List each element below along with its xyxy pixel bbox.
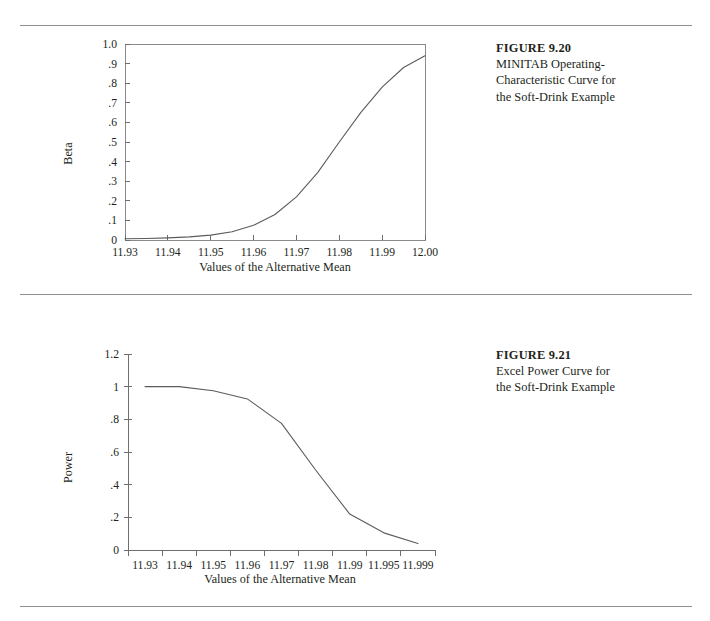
y-tick-label: .4 (108, 156, 117, 169)
power-curve-svg: 1.21.8.6.4.2011.9311.9411.9511.9611.9711… (60, 340, 470, 596)
plot-frame (125, 44, 425, 240)
beta-curve-svg: 1.0.9.8.7.6.5.4.3.2.1011.9311.9411.9511.… (60, 34, 460, 284)
x-tick-label: 11.96 (235, 559, 261, 572)
y-tick-label: .5 (108, 136, 117, 149)
y-tick-label: 1 (113, 381, 119, 394)
y-tick-label: .3 (108, 175, 117, 188)
x-tick-label: 11.98 (326, 246, 352, 259)
x-tick-label: 11.94 (166, 559, 192, 572)
x-tick-label: 11.98 (303, 559, 329, 572)
figure-9-21-caption: FIGURE 9.21 Excel Power Curve for the So… (496, 347, 696, 396)
x-tick-label: 11.99 (369, 246, 395, 259)
y-tick-label: .9 (108, 58, 117, 71)
figure-9-20-block: 1.0.9.8.7.6.5.4.3.2.1011.9311.9411.9511.… (0, 34, 710, 284)
figure-9-21-caption-line-1: Excel Power Curve for (496, 363, 696, 379)
x-tick-label: 11.96 (241, 246, 267, 259)
x-tick-label: 11.97 (269, 559, 295, 572)
x-axis-title-alternative-mean: Values of the Alternative Mean (125, 260, 425, 275)
figure-9-21-caption-line-2: the Soft-Drink Example (496, 379, 696, 395)
figure-9-20-number: FIGURE 9.20 (496, 40, 696, 56)
y-axis-title-power: Power (61, 428, 76, 508)
y-axis-title-beta: Beta (61, 124, 76, 184)
excel-power-chart: 1.21.8.6.4.2011.9311.9411.9511.9611.9711… (60, 340, 470, 596)
y-tick-label: 1.2 (105, 348, 120, 361)
y-tick-label: 1.0 (103, 38, 118, 51)
horizontal-divider-middle (20, 294, 692, 295)
x-tick-label: 11.999 (402, 559, 434, 572)
x-tick-label: 11.93 (112, 246, 138, 259)
x-tick-label: 11.99 (337, 559, 363, 572)
x-tick-label: 11.94 (155, 246, 181, 259)
horizontal-divider-bottom (20, 606, 692, 607)
y-tick-label: .8 (110, 413, 119, 426)
figure-9-21-block: 1.21.8.6.4.2011.9311.9411.9511.9611.9711… (0, 340, 710, 596)
beta-curve-path (125, 56, 425, 239)
figure-9-20-caption-line-1: MINITAB Operating- (496, 56, 696, 72)
x-tick-label: 12.00 (412, 246, 438, 259)
y-tick-label: .6 (108, 116, 117, 129)
operating-characteristic-chart: 1.0.9.8.7.6.5.4.3.2.1011.9311.9411.9511.… (60, 34, 460, 284)
y-tick-label: .2 (108, 195, 117, 208)
document-page: 1.0.9.8.7.6.5.4.3.2.1011.9311.9411.9511.… (0, 0, 710, 621)
y-tick-label: .2 (110, 511, 119, 524)
x-axis-title-alternative-mean-2: Values of the Alternative Mean (125, 572, 435, 587)
x-tick-label: 11.95 (200, 559, 226, 572)
y-tick-label: .1 (108, 214, 117, 227)
figure-9-21-number: FIGURE 9.21 (496, 347, 696, 363)
x-tick-label: 11.93 (132, 559, 158, 572)
figure-9-20-caption: FIGURE 9.20 MINITAB Operating- Character… (496, 40, 696, 105)
x-tick-label: 11.995 (368, 559, 400, 572)
y-tick-label: .7 (108, 97, 117, 110)
x-tick-label: 11.97 (284, 246, 310, 259)
horizontal-divider-top (20, 25, 692, 26)
y-tick-label: .4 (110, 479, 119, 492)
power-curve-path (145, 387, 418, 544)
y-tick-label: .6 (110, 446, 119, 459)
y-tick-label: .8 (108, 77, 117, 90)
figure-9-20-caption-line-2: Characteristic Curve for (496, 72, 696, 88)
y-tick-label: 0 (113, 544, 119, 557)
figure-9-20-caption-line-3: the Soft-Drink Example (496, 89, 696, 105)
x-tick-label: 11.95 (198, 246, 224, 259)
